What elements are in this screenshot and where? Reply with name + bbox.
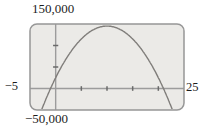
xmin-label: −5 (0, 80, 18, 93)
xmax-label: 25 (186, 81, 199, 94)
function-graph (0, 0, 199, 129)
ymax-label: 150,000 (32, 2, 74, 15)
ymin-label: −50,000 (25, 112, 68, 125)
calculator-graph-figure: 150,000 −50,000 −5 25 (0, 0, 199, 129)
